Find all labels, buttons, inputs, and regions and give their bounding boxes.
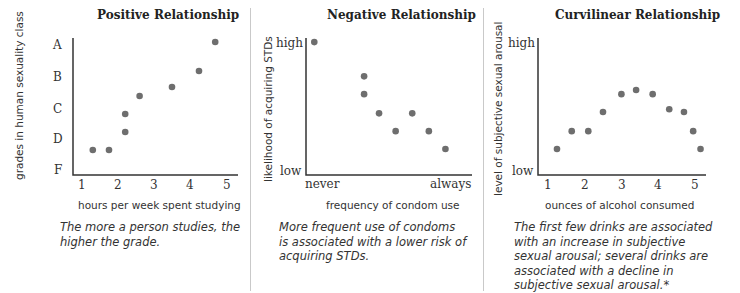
data-point: [136, 93, 143, 100]
data-point: [554, 146, 561, 153]
data-point: [681, 109, 688, 116]
data-point: [311, 39, 318, 46]
data-point: [633, 87, 640, 94]
data-point: [361, 91, 368, 98]
data-point: [376, 110, 383, 117]
data-point: [585, 128, 592, 135]
data-point: [600, 109, 607, 116]
data-point: [649, 91, 656, 98]
axis-3: [538, 38, 706, 175]
data-point: [690, 128, 697, 135]
data-point: [122, 129, 129, 136]
data-point: [90, 147, 97, 154]
data-point: [426, 128, 433, 135]
axis-1: [73, 38, 238, 175]
data-point: [392, 128, 399, 135]
data-point: [106, 147, 113, 154]
data-point: [666, 106, 673, 113]
axis-2: [306, 38, 472, 175]
data-point: [409, 110, 416, 117]
data-point: [697, 146, 704, 153]
axes: [73, 38, 706, 175]
data-point: [169, 84, 176, 91]
data-point: [361, 73, 368, 80]
data-point: [196, 68, 203, 75]
data-points: [90, 39, 704, 154]
data-point: [212, 39, 219, 46]
data-point: [618, 91, 625, 98]
data-point: [568, 128, 575, 135]
data-point: [122, 111, 129, 118]
data-point: [442, 146, 449, 153]
